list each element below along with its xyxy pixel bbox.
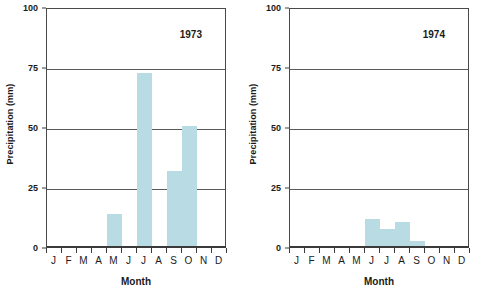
y-tick-label-25-1974: 25 <box>271 183 281 193</box>
x-axis-month-labels-1974: JFMAMJJASOND <box>289 255 469 271</box>
y-axis-ticks-1974: 0255075100 <box>259 8 285 248</box>
month-label-1-1974: F <box>308 255 314 266</box>
x-tick-mark-7-1973 <box>151 248 152 253</box>
precipitation-figure: Precipitation (mm) 0255075100 1973 JFMAM… <box>0 0 486 305</box>
x-tick-mark-5-1974 <box>364 248 365 253</box>
x-tick-mark-4-1973 <box>106 248 107 253</box>
y-tick-label-100-1974: 100 <box>266 3 281 13</box>
month-label-2-1973: M <box>79 255 87 266</box>
bar-O-9-1973 <box>182 126 197 248</box>
plot-area-1974: 1974 <box>289 8 469 248</box>
month-label-9-1973: O <box>185 255 193 266</box>
chart-panel-1973: Precipitation (mm) 0255075100 1973 JFMAM… <box>0 0 243 305</box>
x-tick-mark-9-1974 <box>424 248 425 253</box>
x-tick-mark-12-1974 <box>469 248 470 253</box>
month-label-2-1974: M <box>322 255 330 266</box>
x-tick-mark-10-1973 <box>196 248 197 253</box>
x-tick-mark-1-1973 <box>61 248 62 253</box>
bar-M-4-1973 <box>107 214 122 248</box>
y-axis-title-label-1973: Precipitation (mm) <box>5 84 15 165</box>
x-tick-mark-4-1974 <box>349 248 350 253</box>
month-label-4-1973: M <box>109 255 117 266</box>
y-tick-label-75-1973: 75 <box>28 63 38 73</box>
x-tick-mark-0-1973 <box>46 248 47 253</box>
chart-panel-1974: Precipitation (mm) 0255075100 1974 JFMAM… <box>243 0 486 305</box>
month-label-11-1974: D <box>458 255 465 266</box>
y-tick-label-75-1974: 75 <box>271 63 281 73</box>
x-tick-mark-11-1974 <box>454 248 455 253</box>
x-tick-mark-3-1974 <box>334 248 335 253</box>
month-label-9-1974: O <box>428 255 436 266</box>
month-label-5-1974: J <box>369 255 374 266</box>
y-tick-label-50-1974: 50 <box>271 123 281 133</box>
x-tick-mark-7-1974 <box>394 248 395 253</box>
bar-A-7-1974 <box>395 222 410 248</box>
x-tick-mark-2-1973 <box>76 248 77 253</box>
year-annotation-1974: 1974 <box>423 29 445 40</box>
x-tick-mark-6-1973 <box>136 248 137 253</box>
month-label-4-1974: M <box>352 255 360 266</box>
y-axis-ticks-1973: 0255075100 <box>16 8 42 248</box>
y-tick-label-25-1973: 25 <box>28 183 38 193</box>
bar-J-6-1974 <box>380 229 395 248</box>
month-label-3-1974: A <box>338 255 345 266</box>
month-label-10-1973: N <box>200 255 207 266</box>
month-label-11-1973: D <box>215 255 222 266</box>
y-tick-label-0-1973: 0 <box>33 243 38 253</box>
y-axis-title-label-1974: Precipitation (mm) <box>248 84 258 165</box>
x-tick-mark-8-1973 <box>166 248 167 253</box>
bar-series-1973 <box>47 9 226 248</box>
year-annotation-1973: 1973 <box>180 29 202 40</box>
month-label-7-1974: A <box>398 255 405 266</box>
x-tick-mark-6-1974 <box>379 248 380 253</box>
x-axis-title-1974: Month <box>289 276 469 287</box>
month-label-10-1974: N <box>443 255 450 266</box>
y-tick-label-0-1974: 0 <box>276 243 281 253</box>
x-axis-month-labels-1973: JFMAMJJASOND <box>46 255 226 271</box>
x-tick-mark-10-1974 <box>439 248 440 253</box>
month-label-6-1974: J <box>384 255 389 266</box>
x-axis-ticks-1973 <box>46 248 226 254</box>
month-label-8-1973: S <box>170 255 177 266</box>
bar-J-6-1973 <box>137 73 152 248</box>
x-axis-title-1973: Month <box>46 276 226 287</box>
x-tick-mark-0-1974 <box>289 248 290 253</box>
month-label-0-1974: J <box>294 255 299 266</box>
month-label-3-1973: A <box>95 255 102 266</box>
x-axis-ticks-1974 <box>289 248 469 254</box>
month-label-8-1974: S <box>413 255 420 266</box>
plot-area-1973: 1973 <box>46 8 226 248</box>
month-label-1-1973: F <box>65 255 71 266</box>
month-label-5-1973: J <box>126 255 131 266</box>
y-tick-label-50-1973: 50 <box>28 123 38 133</box>
bar-S-8-1973 <box>167 171 182 248</box>
bar-series-1974 <box>290 9 469 248</box>
month-label-7-1973: A <box>155 255 162 266</box>
month-label-0-1973: J <box>51 255 56 266</box>
month-label-6-1973: J <box>141 255 146 266</box>
x-tick-mark-2-1974 <box>319 248 320 253</box>
x-tick-mark-12-1973 <box>226 248 227 253</box>
x-tick-mark-5-1973 <box>121 248 122 253</box>
bar-J-5-1974 <box>365 219 380 248</box>
x-tick-mark-3-1973 <box>91 248 92 253</box>
y-tick-label-100-1973: 100 <box>23 3 38 13</box>
x-tick-mark-8-1974 <box>409 248 410 253</box>
x-tick-mark-9-1973 <box>181 248 182 253</box>
x-tick-mark-11-1973 <box>211 248 212 253</box>
x-tick-mark-1-1974 <box>304 248 305 253</box>
